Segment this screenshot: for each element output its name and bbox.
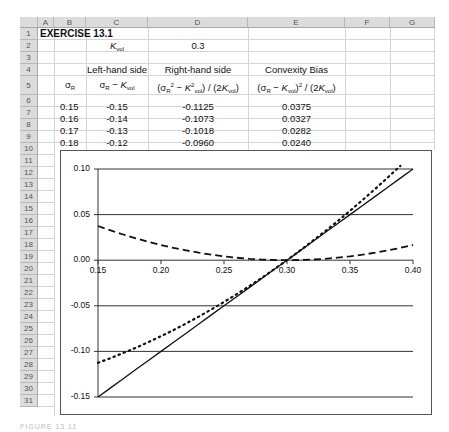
y-axis-tick-label: -0.15 <box>60 391 90 401</box>
y-axis-tick-label: 0.00 <box>60 254 90 264</box>
row-header-29[interactable]: 29 <box>20 371 38 383</box>
row-header-20[interactable]: 20 <box>20 263 38 275</box>
cell-b9[interactable]: 0.18 <box>60 137 79 149</box>
row-header-22[interactable]: 22 <box>20 287 38 299</box>
cell-d6[interactable]: -0.1125 <box>148 101 248 113</box>
header-right-hand-side[interactable]: Right-hand side <box>148 64 248 76</box>
row-header-24[interactable]: 24 <box>20 311 38 323</box>
row-header-13[interactable]: 13 <box>20 179 38 191</box>
row-header-5[interactable]: 5 <box>20 76 38 95</box>
x-axis-tick-label: 0.20 <box>148 265 174 275</box>
cell-b8[interactable]: 0.17 <box>60 125 79 137</box>
row-header-11[interactable]: 11 <box>20 155 38 167</box>
cell-d7[interactable]: -0.1073 <box>148 113 248 125</box>
row-header-7[interactable]: 7 <box>20 107 38 119</box>
row-header-19[interactable]: 19 <box>20 251 38 263</box>
chart-plot-area <box>61 151 433 416</box>
row-header-3[interactable]: 3 <box>20 52 38 64</box>
cell-c8[interactable]: -0.13 <box>86 125 148 137</box>
row-header-4[interactable]: 4 <box>20 64 38 76</box>
y-axis-tick-label: -0.05 <box>60 300 90 310</box>
row-header-21[interactable]: 21 <box>20 275 38 287</box>
cell-b7[interactable]: 0.16 <box>60 113 79 125</box>
kvol-value[interactable]: 0.3 <box>148 40 248 52</box>
header-lhs-formula[interactable]: σR − Kvol <box>86 79 148 94</box>
row-header-27[interactable]: 27 <box>20 347 38 359</box>
column-header-f[interactable]: F <box>345 17 390 28</box>
row-header-17[interactable]: 17 <box>20 227 38 239</box>
convexity-chart[interactable]: 0.100.050.00-0.05-0.10-0.150.150.200.250… <box>60 150 432 415</box>
corner-cell[interactable] <box>20 17 38 28</box>
x-axis-tick-label: 0.15 <box>85 265 111 275</box>
row-header-15[interactable]: 15 <box>20 203 38 215</box>
x-axis-tick-label: 0.35 <box>337 265 363 275</box>
row-header-1[interactable]: 1 <box>20 28 38 40</box>
header-left-hand-side[interactable]: Left-hand side <box>86 64 148 76</box>
header-sigma-r[interactable]: σR <box>54 79 86 94</box>
exercise-title[interactable]: EXERCISE 13.1 <box>40 28 113 40</box>
header-rhs-formula[interactable]: (σR2 − K2vol) / (2Kvol) <box>148 79 248 97</box>
header-bias-formula[interactable]: (σR − Kvol)2 / (2Kvol) <box>248 79 345 97</box>
cell-d9[interactable]: -0.0960 <box>148 137 248 149</box>
kvol-label[interactable]: Kvol <box>86 40 148 55</box>
row-header-8[interactable]: 8 <box>20 119 38 131</box>
y-axis-tick-label: 0.05 <box>60 209 90 219</box>
column-header-c[interactable]: C <box>86 17 148 28</box>
row-header-30[interactable]: 30 <box>20 383 38 395</box>
y-axis-tick-label: 0.10 <box>60 163 90 173</box>
row-header-23[interactable]: 23 <box>20 299 38 311</box>
column-header-d[interactable]: D <box>148 17 248 28</box>
cell-c6[interactable]: -0.15 <box>86 101 148 113</box>
cell-c9[interactable]: -0.12 <box>86 137 148 149</box>
row-header-18[interactable]: 18 <box>20 239 38 251</box>
x-axis-tick-label: 0.30 <box>274 265 300 275</box>
cell-e7[interactable]: 0.0327 <box>248 113 345 125</box>
series-dashed-line[interactable] <box>98 226 413 260</box>
column-header-b[interactable]: B <box>54 17 86 28</box>
column-header-e[interactable]: E <box>248 17 345 28</box>
row-header-10[interactable]: 10 <box>20 143 38 155</box>
row-header-2[interactable]: 2 <box>20 40 38 52</box>
row-header-6[interactable]: 6 <box>20 95 38 107</box>
column-header-a[interactable]: A <box>38 17 54 28</box>
x-axis-tick-label: 0.40 <box>400 265 426 275</box>
cell-b6[interactable]: 0.15 <box>60 101 79 113</box>
row-header-25[interactable]: 25 <box>20 323 38 335</box>
cell-c7[interactable]: -0.14 <box>86 113 148 125</box>
row-header-28[interactable]: 28 <box>20 359 38 371</box>
figure-caption: FIGURE 13.11 <box>20 423 77 430</box>
row-header-26[interactable]: 26 <box>20 335 38 347</box>
cell-e8[interactable]: 0.0282 <box>248 125 345 137</box>
cell-e6[interactable]: 0.0375 <box>248 101 345 113</box>
row-header-31[interactable]: 31 <box>20 395 38 407</box>
row-header-16[interactable]: 16 <box>20 215 38 227</box>
header-convexity-bias[interactable]: Convexity Bias <box>248 64 345 76</box>
cell-e9[interactable]: 0.0240 <box>248 137 345 149</box>
row-header-12[interactable]: 12 <box>20 167 38 179</box>
y-axis-tick-label: -0.10 <box>60 345 90 355</box>
x-axis-tick-label: 0.25 <box>211 265 237 275</box>
row-header-14[interactable]: 14 <box>20 191 38 203</box>
cell-d8[interactable]: -0.1018 <box>148 125 248 137</box>
row-header-9[interactable]: 9 <box>20 131 38 143</box>
column-header-g[interactable]: G <box>390 17 435 28</box>
